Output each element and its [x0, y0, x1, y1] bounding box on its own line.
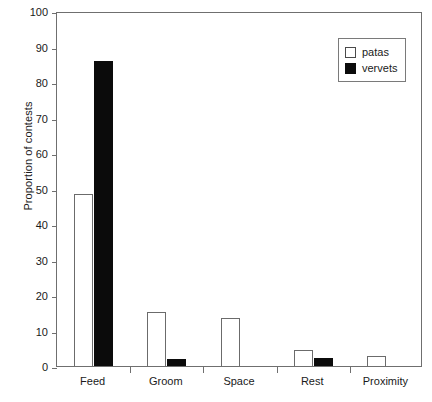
legend-swatch-patas-icon: [345, 47, 356, 58]
y-axis-tick-label: 50: [36, 184, 48, 196]
x-axis-tick-mark: [277, 367, 278, 373]
bar-chart-figure: Proportion of contests 01020304050607080…: [0, 0, 432, 402]
legend-label-patas: patas: [362, 47, 389, 58]
y-axis-tick-label: 20: [36, 290, 48, 302]
y-axis-tick-label: 70: [36, 113, 48, 125]
legend-item-vervets: vervets: [345, 60, 397, 76]
x-axis-label-groom: Groom: [149, 375, 183, 387]
bar-groom-vervets: [167, 359, 186, 366]
legend-swatch-vervets-icon: [345, 63, 356, 74]
bar-rest-vervets: [314, 358, 333, 366]
y-axis-tick-label: 10: [36, 326, 48, 338]
y-axis-tick-mark: [52, 191, 57, 192]
legend-label-vervets: vervets: [362, 63, 397, 74]
y-axis-tick-mark: [52, 368, 57, 369]
x-axis-label-feed: Feed: [80, 375, 105, 387]
y-axis-tick-mark: [52, 262, 57, 263]
bar-proximity-patas: [367, 356, 386, 366]
y-axis-tick-mark: [52, 13, 57, 14]
x-axis-tick-mark: [203, 367, 204, 373]
y-axis-tick-label: 100: [30, 6, 48, 18]
bar-feed-vervets: [94, 61, 113, 366]
y-axis-tick-label: 60: [36, 148, 48, 160]
y-axis-tick-mark: [52, 226, 57, 227]
x-axis-label-space: Space: [223, 375, 254, 387]
y-axis-tick-mark: [52, 84, 57, 85]
bar-space-patas: [221, 318, 240, 366]
y-axis-tick-label: 80: [36, 77, 48, 89]
y-axis-tick-mark: [52, 120, 57, 121]
y-axis-tick-mark: [52, 297, 57, 298]
y-axis-tick-label: 0: [42, 361, 48, 373]
y-axis-tick-label: 90: [36, 42, 48, 54]
x-axis-label-rest: Rest: [301, 375, 324, 387]
bar-feed-patas: [74, 194, 93, 366]
x-axis-tick-mark: [350, 367, 351, 373]
chart-legend: patas vervets: [338, 38, 406, 82]
x-axis-tick-mark: [130, 367, 131, 373]
legend-item-patas: patas: [345, 44, 397, 60]
y-axis-tick-mark: [52, 155, 57, 156]
y-axis-tick-mark: [52, 333, 57, 334]
bar-rest-patas: [294, 350, 313, 366]
y-axis-tick-label: 40: [36, 219, 48, 231]
bar-groom-patas: [147, 312, 166, 366]
y-axis-title: Proportion of contests: [22, 66, 34, 246]
y-axis-tick-mark: [52, 49, 57, 50]
x-axis-label-proximity: Proximity: [363, 375, 408, 387]
y-axis-tick-label: 30: [36, 255, 48, 267]
